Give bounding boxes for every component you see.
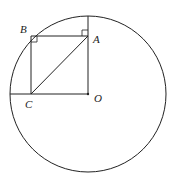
label-c: C [25,98,33,110]
label-o: O [94,92,102,104]
point-o [87,93,89,95]
label-b: B [20,23,27,35]
geometry-diagram: B A C O [0,0,172,181]
segment-ac [31,36,88,94]
right-angle-mark-a [82,30,88,36]
right-angle-mark-b [31,36,37,42]
label-a: A [92,33,100,45]
